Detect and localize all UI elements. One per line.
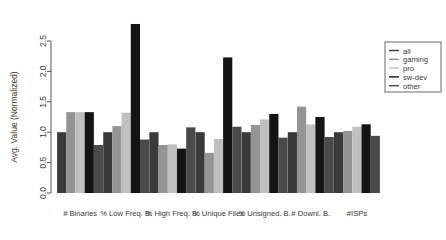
- bar-chart: 0.00.51.01.52.02.5Avg. Value (Normalized…: [0, 0, 446, 240]
- bar-gaming-6: [343, 131, 352, 193]
- bar-gaming-2: [159, 145, 168, 193]
- bar-gaming-4: [251, 125, 260, 193]
- bar-all-0: [57, 132, 66, 193]
- bar-other-1: [140, 140, 149, 194]
- bar-sw-dev-4: [269, 114, 278, 193]
- x-axis-label-4: % Unsigned. B.: [238, 209, 290, 218]
- bar-other-0: [94, 145, 103, 193]
- bar-sw-dev-1: [131, 24, 140, 193]
- bar-sw-dev-3: [223, 57, 232, 193]
- legend-label-all: all: [403, 47, 411, 56]
- bar-gaming-5: [297, 107, 306, 193]
- bar-other-3: [232, 127, 241, 193]
- bar-pro-1: [122, 113, 131, 193]
- bar-all-2: [149, 132, 158, 193]
- legend-label-sw-dev: sw-dev: [403, 73, 427, 82]
- x-axis-label-1: % Low Freq. B.: [100, 209, 152, 218]
- chart-canvas: 0.00.51.01.52.02.5Avg. Value (Normalized…: [0, 0, 446, 240]
- bar-sw-dev-6: [362, 124, 371, 193]
- bar-all-4: [242, 132, 251, 193]
- y-tick-label-4: 2.0: [38, 65, 48, 77]
- y-tick-label-1: 0.5: [38, 156, 48, 168]
- x-axis-label-3: % Unique Files: [193, 209, 244, 218]
- bar-all-3: [196, 132, 205, 193]
- x-axis-label-5: # Downl. B.: [291, 209, 330, 218]
- bar-all-6: [334, 132, 343, 193]
- bar-gaming-0: [66, 112, 75, 193]
- y-tick-label-0: 0.0: [38, 187, 48, 199]
- bar-other-5: [325, 137, 334, 193]
- bar-all-5: [288, 132, 297, 193]
- bar-all-1: [103, 132, 112, 193]
- bar-sw-dev-0: [85, 112, 94, 193]
- bar-pro-5: [306, 124, 315, 193]
- bar-sw-dev-2: [177, 149, 186, 193]
- x-axis-label-6: #ISPs: [347, 209, 367, 218]
- x-axis-label-0: # Binaries: [63, 209, 97, 218]
- y-axis-title: Avg. Value (Normalized): [9, 71, 19, 163]
- legend-label-other: other: [403, 82, 421, 91]
- bar-gaming-3: [205, 153, 214, 193]
- bar-other-4: [278, 138, 287, 193]
- bar-sw-dev-5: [315, 117, 324, 193]
- bar-pro-6: [352, 127, 361, 193]
- y-tick-label-5: 2.5: [38, 35, 48, 47]
- bar-other-2: [186, 127, 195, 193]
- bar-pro-4: [260, 119, 269, 193]
- bar-pro-2: [168, 144, 177, 193]
- y-tick-label-2: 1.0: [38, 126, 48, 138]
- bar-other-6: [371, 136, 380, 193]
- bar-pro-3: [214, 139, 223, 193]
- bar-gaming-1: [112, 126, 121, 193]
- y-tick-label-3: 1.5: [38, 96, 48, 108]
- legend-label-gaming: gaming: [403, 55, 428, 64]
- legend-label-pro: pro: [403, 64, 414, 73]
- x-axis-label-2: % High Freq. B.: [146, 209, 200, 218]
- bar-pro-0: [75, 112, 84, 193]
